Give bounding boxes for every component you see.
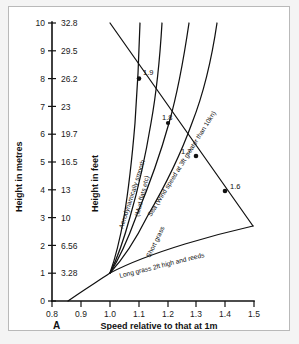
y-tick-metres-5: 5 bbox=[40, 157, 45, 167]
x-tick-1-5: 1.5 bbox=[248, 309, 260, 319]
x-tick-1-3: 1.3 bbox=[190, 309, 202, 319]
x-axis-title: Speed relative to that at 1m bbox=[100, 321, 217, 330]
y-tick-metres-2: 2 bbox=[40, 241, 45, 251]
x-axis-ticks bbox=[52, 301, 254, 307]
x-tick-1-0: 1.0 bbox=[104, 309, 116, 319]
y-tick-metres-9: 9 bbox=[40, 46, 45, 56]
x-tick-labels: 0.8 0.9 1.0 1.1 1.2 1.3 1.4 1.5 bbox=[46, 309, 260, 319]
curve-label-long-grass-reeds: Long grass 2ft high and reeds bbox=[119, 251, 206, 280]
y-tick-feet-19-7: 19.7 bbox=[61, 129, 78, 139]
y-tick-feet-26-2: 26.2 bbox=[61, 74, 78, 84]
y-tick-feet-32-8: 32.8 bbox=[61, 18, 78, 28]
y-tick-feet-6-56: 6.56 bbox=[61, 241, 78, 251]
wind-profile-chart: 10 9 8 7 6 5 4 3 2 1 0 32.8 29.5 26.2 23… bbox=[9, 7, 289, 330]
screenshot-root: 10 9 8 7 6 5 4 3 2 1 0 32.8 29.5 26.2 23… bbox=[0, 0, 299, 344]
y-tick-metres-3: 3 bbox=[40, 213, 45, 223]
y-axis-title-feet: Height in feet bbox=[90, 155, 100, 212]
x-tick-1-2: 1.2 bbox=[162, 309, 174, 319]
x-tick-1-4: 1.4 bbox=[219, 309, 231, 319]
annotation-1-9: 1.9 bbox=[143, 68, 153, 77]
marker-dot-1-6 bbox=[223, 189, 228, 194]
x-tick-0-8: 0.8 bbox=[46, 309, 58, 319]
panel-letter: A bbox=[53, 320, 60, 330]
curve-labels-group: Aerodynamically smooth (Mud flats etc) S… bbox=[117, 110, 217, 280]
marker-dot-1-7 bbox=[194, 154, 199, 159]
figure-panel: 10 9 8 7 6 5 4 3 2 1 0 32.8 29.5 26.2 23… bbox=[8, 6, 290, 331]
y-tick-metres-4: 4 bbox=[40, 185, 45, 195]
curve-sea-wind-speed bbox=[110, 23, 217, 273]
y-axis-title-metres: Height in metres bbox=[14, 141, 24, 212]
y-tick-feet-16-5: 16.5 bbox=[61, 157, 78, 167]
x-tick-1-1: 1.1 bbox=[133, 309, 145, 319]
x-tick-0-9: 0.9 bbox=[75, 309, 87, 319]
curve-short-grass bbox=[110, 23, 189, 273]
y-tick-feet-3-28: 3.28 bbox=[61, 268, 78, 278]
annotation-1-8: 1.8 bbox=[162, 113, 172, 122]
y-tick-metres-0: 0 bbox=[40, 296, 45, 306]
y-tick-labels-metres: 10 9 8 7 6 5 4 3 2 1 0 bbox=[36, 18, 46, 306]
annotation-1-6: 1.6 bbox=[230, 182, 240, 191]
y-tick-metres-1: 1 bbox=[40, 268, 45, 278]
marker-dot-1-9 bbox=[137, 76, 142, 81]
y-tick-feet-29-5: 29.5 bbox=[61, 46, 78, 56]
y-tick-metres-7: 7 bbox=[40, 102, 45, 112]
y-tick-feet-13: 13 bbox=[61, 185, 71, 195]
y-tick-feet-10: 10 bbox=[61, 213, 71, 223]
axes-group bbox=[52, 22, 254, 301]
y-tick-labels-feet: 32.8 29.5 26.2 23 19.7 16.5 13 10 6.56 3… bbox=[61, 18, 78, 278]
y-tick-metres-8: 8 bbox=[40, 74, 45, 84]
y-tick-feet-23: 23 bbox=[61, 102, 71, 112]
y-tick-metres-6: 6 bbox=[40, 129, 45, 139]
y-tick-metres-10: 10 bbox=[36, 18, 46, 28]
